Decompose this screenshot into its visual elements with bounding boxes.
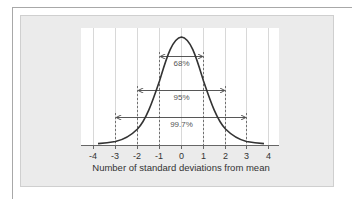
tick-label: 3 xyxy=(244,151,249,161)
tick-label: 1 xyxy=(201,151,206,161)
tick-label: -2 xyxy=(133,151,141,161)
three-sigma-label: 99.7% xyxy=(170,120,193,129)
x-axis-tick-labels: -4 -3 -2 -1 0 1 2 3 4 xyxy=(89,151,271,161)
tick-label: 2 xyxy=(223,151,228,161)
one-sigma-label: 68% xyxy=(173,59,189,68)
tick-label: -3 xyxy=(111,151,119,161)
two-sigma-label: 95% xyxy=(173,93,189,102)
tick-label: -4 xyxy=(89,151,97,161)
normal-distribution-chart: 68% 95% 99.7% -4 -3 -2 -1 0 1 2 3 4 Numb… xyxy=(0,0,352,199)
x-axis-title: Number of standard deviations from mean xyxy=(92,162,269,173)
tick-label: 4 xyxy=(266,151,271,161)
tick-label: 0 xyxy=(179,151,184,161)
tick-label: -1 xyxy=(155,151,163,161)
